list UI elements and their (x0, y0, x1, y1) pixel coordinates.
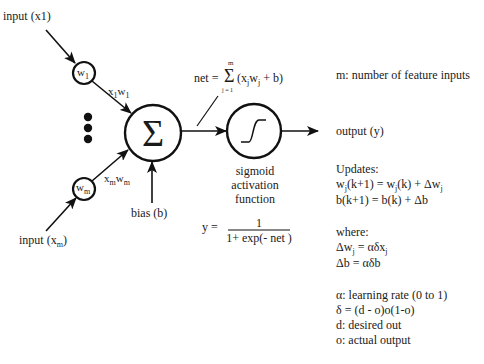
delta-definition: δ = (d - o)o(1-o) (336, 303, 414, 317)
m-definition: m: number of feature inputs (336, 68, 470, 82)
formula-lhs: y = (202, 220, 218, 234)
formula-denominator: 1+ exp(- net ) (226, 231, 292, 245)
dw-b-sub: j (385, 247, 387, 256)
w1-text: w (77, 66, 85, 78)
wu-a: w (336, 177, 345, 191)
dw-b: = αδx (355, 240, 386, 254)
wm-sub: m (84, 187, 90, 196)
bias-label: bias (b) (131, 206, 167, 220)
d-definition: d: desired out (336, 318, 401, 332)
inputm-label-suffix: ) (63, 233, 67, 247)
ellipsis-dot (84, 113, 92, 121)
delta-b-definition: Δb = αδb (336, 256, 380, 270)
updates-title: Updates: (336, 162, 379, 176)
sigmoid-caption-line3: function (224, 192, 286, 206)
wm-text: w (76, 181, 84, 193)
x1w1-b-sub: 1 (125, 91, 129, 100)
ellipsis-dot (84, 124, 92, 132)
net-equation-prefix: net = (194, 71, 218, 85)
net-equation-body: (xjwj + b) (237, 71, 283, 85)
xmwm-b-sub: m (124, 178, 130, 187)
wu-c-sub: j (441, 184, 443, 193)
w1-sub: 1 (85, 72, 89, 81)
net-body-1: (x (237, 71, 247, 85)
output-label: output (y) (336, 124, 384, 138)
xmwm-b: w (116, 172, 124, 184)
inputm-label-prefix: input (x (19, 233, 57, 247)
inputm-arrow (46, 198, 76, 231)
net-pointer-line (197, 96, 218, 126)
x1w1-label: x1w1 (108, 84, 129, 98)
bias-update-rule: b(k+1) = b(k) + Δb (336, 193, 428, 207)
net-sigma-lower: j = 1 (222, 86, 233, 94)
input1-label: input (x1) (3, 9, 51, 23)
net-body-2: w (249, 71, 258, 85)
wu-b: (k+1) = w (347, 177, 395, 191)
delta-w-definition: Δwj = αδxj (336, 240, 388, 254)
summation-symbol: Σ (142, 112, 164, 154)
sigmoid-caption: sigmoid activation function (224, 164, 286, 206)
o-definition: o: actual output (336, 333, 411, 347)
net-body-3: + b) (260, 71, 283, 85)
dw-a: Δw (336, 240, 352, 254)
alpha-definition: α: learning rate (0 to 1) (336, 288, 447, 302)
weight-update-rule: wj(k+1) = wj(k) + Δwj (336, 177, 443, 191)
w1-label: w1 (77, 65, 89, 79)
net-sigma: Σ (224, 66, 234, 86)
inputm-label: input (xm) (19, 233, 67, 247)
formula-numerator: 1 (228, 216, 290, 230)
xmwm-label: xmwm (104, 171, 130, 185)
wm-label: wm (76, 180, 90, 194)
ellipsis-dot (84, 135, 92, 143)
net-sigma-upper: m (228, 59, 233, 67)
where-title: where: (336, 225, 369, 239)
input1-arrow (46, 30, 75, 63)
sigmoid-caption-line1: sigmoid (224, 164, 286, 178)
sigmoid-caption-line2: activation (224, 178, 286, 192)
wu-c: (k) + Δw (397, 177, 440, 191)
